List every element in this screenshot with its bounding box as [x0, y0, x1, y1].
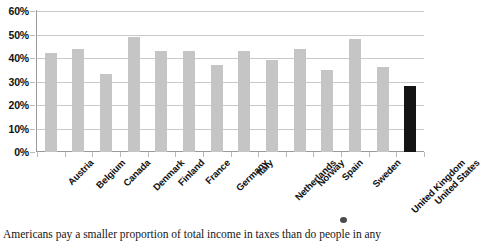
plot-area	[37, 11, 424, 152]
y-axis-tick-mark	[30, 35, 35, 36]
bar-italy	[238, 51, 250, 152]
figure-caption: Americans pay a smaller proportion of to…	[3, 228, 431, 241]
bar-slot	[286, 11, 314, 152]
x-axis-label-france: France	[203, 157, 232, 186]
bar-austria	[45, 53, 57, 152]
bar-series	[37, 11, 424, 152]
bar-united-states	[404, 86, 416, 152]
x-axis-category-labels: AustriaBelgiumCanadaDenmarkFinlandFrance…	[37, 157, 424, 219]
y-axis-tick-mark	[30, 129, 35, 130]
y-axis-tick-label: 50%	[9, 29, 29, 41]
bar-slot	[203, 11, 231, 152]
bar-slot	[313, 11, 341, 152]
bar-netherlands	[266, 60, 278, 152]
x-axis-label-sweden: Sweden	[370, 157, 403, 190]
bar-united-kingdom	[377, 67, 389, 152]
y-axis-tick-mark	[30, 82, 35, 83]
bar-denmark	[128, 37, 140, 152]
y-axis-tick-label: 40%	[9, 52, 29, 64]
y-axis-tick-mark	[30, 105, 35, 106]
bar-finland	[155, 51, 167, 152]
y-axis-tick-label: 20%	[9, 99, 29, 111]
bar-spain	[321, 70, 333, 152]
bar-sweden	[349, 39, 361, 152]
bar-slot	[175, 11, 203, 152]
y-axis-tick-mark	[30, 152, 35, 153]
bar-slot	[341, 11, 369, 152]
y-axis-tick-label: 60%	[9, 5, 29, 17]
y-axis-tick-label: 30%	[9, 76, 29, 88]
x-axis-label-belgium: Belgium	[94, 157, 128, 191]
x-axis-tick-mark	[424, 152, 425, 157]
bar-norway	[294, 49, 306, 152]
bar-chart: 0%10%20%30%40%50%60% AustriaBelgiumCanad…	[0, 0, 431, 158]
bar-belgium	[72, 49, 84, 152]
y-axis: 0%10%20%30%40%50%60%	[0, 0, 34, 158]
bar-slot	[258, 11, 286, 152]
bar-slot	[230, 11, 258, 152]
bar-france	[183, 51, 195, 152]
x-axis-label-austria: Austria	[65, 157, 95, 187]
scan-speck	[340, 217, 347, 223]
y-axis-tick-mark	[30, 58, 35, 59]
bar-slot	[369, 11, 397, 152]
bar-slot	[396, 11, 424, 152]
bar-slot	[37, 11, 65, 152]
bar-canada	[100, 74, 112, 152]
x-axis-label-canada: Canada	[121, 157, 152, 188]
bar-germany	[211, 65, 223, 152]
x-axis-label-spain: Spain	[340, 157, 366, 183]
bar-slot	[65, 11, 93, 152]
bar-slot	[148, 11, 176, 152]
y-axis-tick-mark	[30, 11, 35, 12]
bar-slot	[120, 11, 148, 152]
bar-slot	[92, 11, 120, 152]
y-axis-tick-label: 10%	[9, 123, 29, 135]
y-axis-tick-label: 0%	[14, 146, 29, 158]
